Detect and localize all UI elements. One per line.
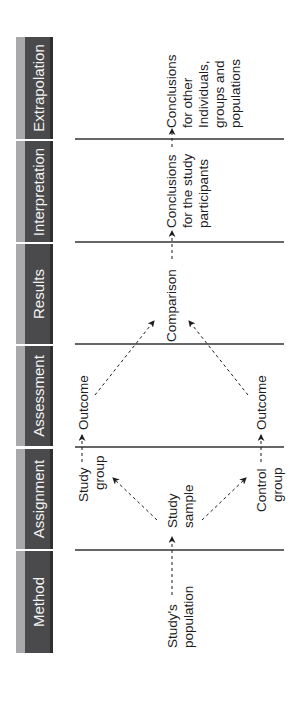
node-line: Comparison: [164, 269, 180, 342]
node-conclusions-participants: Conclusions for the study participants: [164, 154, 212, 228]
node-line: Individuals,: [196, 54, 212, 128]
node-line: Study's: [165, 586, 181, 648]
node-line: Study: [165, 484, 181, 528]
node-comparison: Comparison: [164, 269, 180, 342]
node-outcome-control: Outcome: [254, 375, 270, 430]
arrow-outcome-to-comparison-left: [95, 321, 154, 395]
node-line: Outcome: [254, 375, 270, 430]
node-line: Outcome: [76, 375, 92, 430]
node-line: groups and: [212, 54, 228, 128]
node-study-group: Study group: [76, 455, 108, 502]
node-line: for other: [180, 54, 196, 128]
arrow-sample-to-control-group: [202, 478, 246, 520]
node-line: participants: [196, 154, 212, 228]
node-line: Study: [76, 455, 92, 502]
node-line: Control: [254, 467, 270, 512]
node-conclusions-other: Conclusions for other Individuals, group…: [164, 54, 244, 128]
node-line: population: [181, 586, 197, 648]
node-control-group: Control group: [254, 467, 286, 512]
node-line: sample: [181, 484, 197, 528]
node-outcome-study: Outcome: [76, 375, 92, 430]
flow-diagram: [0, 0, 296, 706]
node-study-population: Study's population: [165, 586, 197, 648]
node-line: Conclusions: [164, 154, 180, 228]
node-line: group: [92, 455, 108, 502]
node-line: Conclusions: [164, 54, 180, 128]
node-study-sample: Study sample: [165, 484, 197, 528]
node-line: for the study: [180, 154, 196, 228]
arrow-outcome-to-comparison-right: [189, 321, 248, 395]
node-line: group: [270, 467, 286, 512]
arrow-sample-to-study-group: [113, 478, 157, 520]
node-line: populations: [228, 54, 244, 128]
